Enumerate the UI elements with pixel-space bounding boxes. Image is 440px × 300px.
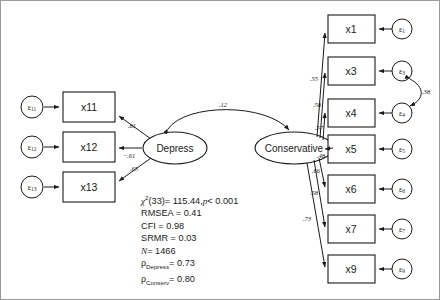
p-value: < 0.001 [207, 196, 238, 206]
indicator-label-x3: x3 [345, 65, 356, 77]
indicator-label-x9: x9 [345, 263, 356, 275]
covariance-value-factors: .12 [219, 101, 228, 108]
indicator-label-x6: x6 [345, 183, 356, 195]
indicator-label-x7: x7 [345, 223, 356, 235]
factor-label-conservative: Conservative [265, 143, 324, 154]
error-covariance-arc: .38 [410, 79, 431, 106]
indicator-label-x11: x11 [81, 101, 97, 113]
covariance-arc-path [168, 110, 289, 130]
latent-factor-conservative: Conservative [255, 132, 333, 164]
chi-square-df: (33) [149, 196, 165, 206]
stat-line-rmsea: RMSEA = 0.41 [141, 207, 238, 219]
left-error-group: ε11 ε12 ε13 [21, 96, 59, 198]
error-covariance-value: .38 [422, 88, 431, 95]
error-covariance-path [410, 79, 421, 106]
stat-line-rho-depress: ρDepress= 0.73 [141, 257, 238, 273]
loading-value-x1: .55 [310, 75, 319, 82]
stat-line-cfi: CFI = 0.98 [141, 220, 238, 232]
left-indicator-boxes: x11 x12 x13 [63, 92, 115, 202]
loading-path-x4 [323, 113, 325, 140]
indicator-label-x4: x4 [345, 107, 356, 119]
stat-line-sample-size: N= 1466 [141, 245, 238, 257]
rho-subscript-conserv: Conserv [146, 279, 169, 286]
loading-value-x4: .57 [315, 124, 324, 131]
right-error-group: ε1 ε3 ε4 ε5 ε6 [379, 19, 412, 279]
loading-value-x9: .73 [303, 215, 312, 222]
chi-square-value: = 115.44, [165, 196, 203, 206]
indicator-label-x13: x13 [81, 181, 98, 193]
rho-value-depress: = 0.73 [169, 258, 195, 268]
indicator-label-x12: x12 [81, 141, 98, 153]
right-indicator-boxes: x1 x3 x4 x5 x6 x7 x9 [328, 15, 375, 283]
rho-subscript-depress: Depress [146, 263, 169, 270]
rho-value-conserv: = 0.80 [169, 274, 195, 284]
stat-line-srmr: SRMR = 0.03 [141, 232, 238, 244]
loading-value-x5: .48 [317, 152, 326, 159]
factor-label-depress: Depress [156, 143, 193, 154]
fit-statistics-block: χ2(33)= 115.44,p< 0.001 RMSEA = 0.41 CFI… [141, 192, 238, 290]
n-value: = 1466 [147, 246, 175, 256]
loading-value-x12: −.61 [123, 152, 136, 159]
indicator-label-x5: x5 [345, 143, 356, 155]
indicator-label-x1: x1 [345, 23, 356, 35]
loading-value-x3: .58 [313, 101, 322, 108]
latent-factor-depress: Depress [143, 132, 207, 164]
sem-diagram: ε11 ε12 ε13 x11 x12 x13 .8 [0, 0, 440, 300]
stat-line-chi-square: χ2(33)= 115.44,p< 0.001 [141, 192, 238, 207]
loading-value-x11: .81 [128, 122, 136, 129]
loading-value-x13: .65 [130, 165, 139, 172]
factor-covariance-arc: .12 [168, 101, 289, 130]
stat-line-rho-conserv: ρConserv= 0.80 [141, 273, 238, 289]
